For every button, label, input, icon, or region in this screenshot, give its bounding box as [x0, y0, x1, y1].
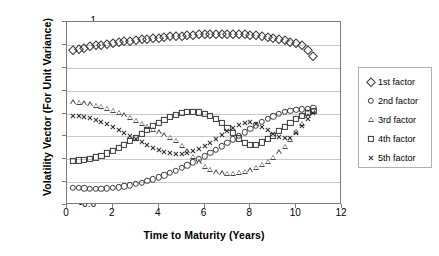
x-tick-label: 10: [280, 208, 310, 218]
x-tick-label: 6: [189, 208, 219, 218]
legend-item-1[interactable]: 1st factor: [359, 72, 431, 91]
x-tick-mark: [249, 204, 250, 208]
x-tick-mark: [295, 204, 296, 208]
legend-item-2[interactable]: 2nd factor: [359, 91, 431, 110]
legend-item-5[interactable]: 5th factor: [359, 148, 431, 167]
x-tick-label: 2: [97, 208, 127, 218]
legend-item-label: 5th factor: [378, 153, 416, 163]
x-tick-label: 4: [143, 208, 173, 218]
legend: 1st factor2nd factor3rd factor4th factor…: [358, 67, 432, 168]
legend-item-4[interactable]: 4th factor: [359, 129, 431, 148]
cross-icon: [365, 152, 377, 164]
legend-item-label: 1st factor: [378, 77, 415, 87]
gridline: [67, 91, 340, 92]
plot-area: [66, 21, 341, 204]
x-tick-mark: [66, 204, 67, 208]
legend-item-label: 3rd factor: [378, 115, 416, 125]
diamond-icon: [365, 76, 377, 88]
triangle-icon: [365, 114, 377, 126]
x-axis-title: Time to Maturity (Years): [66, 229, 342, 241]
circle-icon: [365, 95, 377, 107]
legend-item-3[interactable]: 3rd factor: [359, 110, 431, 129]
x-tick-mark: [158, 204, 159, 208]
gridline: [67, 159, 340, 160]
x-tick-mark: [341, 204, 342, 208]
x-tick-label: 12: [326, 208, 356, 218]
x-tick-label: 0: [51, 208, 81, 218]
square-icon: [365, 133, 377, 145]
gridline: [67, 68, 340, 69]
gridline: [67, 182, 340, 183]
x-tick-mark: [204, 204, 205, 208]
x-tick-mark: [112, 204, 113, 208]
legend-item-label: 2nd factor: [378, 96, 418, 106]
chart-figure: Volatility Vector (For Unit Variance) -0…: [0, 0, 439, 256]
x-tick-label: 8: [234, 208, 264, 218]
y-axis-title: Volatility Vector (For Unit Variance): [41, 7, 55, 207]
gridline: [67, 136, 340, 137]
legend-item-label: 4th factor: [378, 134, 416, 144]
